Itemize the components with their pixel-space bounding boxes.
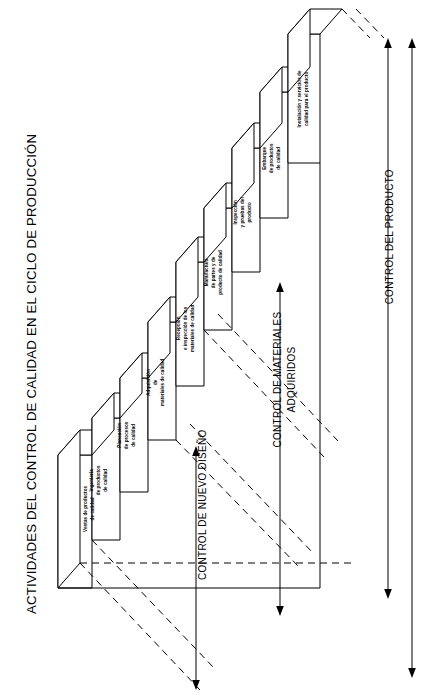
bracket-label-materiales: CONTROL DE MATERIALES ADQUIRIDOS [271, 300, 298, 460]
step-6-line3: producto de calidad [217, 229, 224, 315]
step-6-line2: de partes y de [211, 229, 218, 315]
bracket-producto-line1: CONTROL DEL PRODUCTO [383, 159, 397, 315]
bracket-label-producto: CONTROL DEL PRODUCTO [383, 159, 397, 315]
step-2-line2: de productos [96, 440, 103, 520]
step-2-line3: de calidad [102, 440, 109, 520]
bracket-materiales-line2: ADQUIRIDOS [284, 300, 298, 460]
step-5-line3: materiales de calidad [189, 284, 196, 372]
step-9-line2: calidad para el producto [304, 51, 311, 147]
step-2-line1: Ingeniería [89, 440, 96, 520]
step-6-line1: Manufactura [204, 229, 211, 315]
page-title: ACTIVIDADES DEL CONTROL DE CALIDAD EN EL… [24, 134, 39, 614]
step-4-line2: de [153, 342, 160, 422]
step-label-3: Planeación de procesos de calidad [117, 396, 138, 474]
staircase-svg [0, 0, 432, 696]
step-7-line1: Inspección [233, 169, 240, 255]
step-3-line1: Planeación [117, 396, 124, 474]
step-label-6: Manufactura de partes y de producto de c… [204, 229, 225, 315]
step-8-line2: de productos [269, 114, 276, 202]
diagram-canvas: ACTIVIDADES DEL CONTROL DE CALIDAD EN EL… [0, 0, 432, 696]
step-4-line1: Adquisición [146, 342, 153, 422]
bracket-nuevo-diseno-line1: CONTROL DE NUEVO DISEÑO [196, 425, 210, 585]
step-9-shape [288, 9, 342, 163]
step-5-line2: e inspección de los [183, 284, 190, 372]
step-label-4: Adquisición de materiales de calidad [146, 342, 167, 422]
step-label-8: Embarque de productos de calidad [262, 114, 283, 202]
step-8-line3: de calidad [275, 114, 282, 202]
bracket-materiales-line1: CONTROL DE MATERIALES [271, 300, 285, 460]
step-label-7: Inspección y pruebas del producto [233, 169, 254, 255]
step-7-line2: y pruebas del [240, 169, 247, 255]
step-4-line3: materiales de calidad [159, 342, 166, 422]
step-3-line2: de procesos [124, 396, 131, 474]
step-5-line1: Recepción [176, 284, 183, 372]
bracket-label-nuevo-diseno: CONTROL DE NUEVO DISEÑO [196, 425, 210, 585]
step-8-line1: Embarque [262, 114, 269, 202]
step-3-line3: de calidad [130, 396, 137, 474]
step-label-9: Instalación y servicios de calidad para … [297, 51, 311, 147]
step-label-5: Recepción e inspección de los materiales… [176, 284, 197, 372]
step-label-2: Ingeniería de productos de calidad [89, 440, 110, 520]
step-9-line1: Instalación y servicios de [297, 51, 304, 147]
step-7-line3: producto [246, 169, 253, 255]
